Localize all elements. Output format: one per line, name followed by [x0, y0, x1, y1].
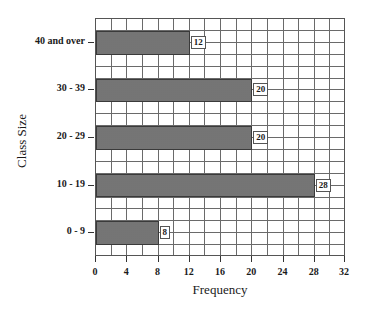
- y-category-label: 40 and over: [35, 35, 85, 47]
- x-tick-label: 20: [239, 266, 263, 277]
- x-tick-label: 16: [208, 266, 232, 277]
- y-tick: [88, 42, 94, 43]
- x-tick: [220, 256, 221, 262]
- x-tick: [251, 256, 252, 262]
- bar-value-label: 20: [253, 131, 268, 144]
- grid-line-horizontal: [96, 208, 344, 209]
- bar-value-label: 20: [253, 83, 268, 96]
- y-category-label: 10 - 19: [57, 178, 85, 190]
- x-tick-label: 12: [177, 266, 201, 277]
- x-tick: [344, 256, 345, 262]
- y-category-label: 20 - 29: [57, 130, 85, 142]
- bar-value-label: 12: [191, 36, 206, 49]
- x-axis-title: Frequency: [170, 282, 270, 298]
- x-tick: [95, 256, 96, 262]
- y-tick: [88, 232, 94, 233]
- y-tick: [88, 137, 94, 138]
- plot-area: 122020288: [95, 18, 345, 256]
- grid-line-horizontal: [96, 66, 344, 67]
- x-tick-label: 0: [83, 266, 107, 277]
- y-category-label: 0 - 9: [67, 225, 85, 237]
- bar: [96, 126, 252, 150]
- y-tick: [88, 185, 94, 186]
- x-tick: [283, 256, 284, 262]
- x-tick-label: 32: [332, 266, 356, 277]
- x-tick: [158, 256, 159, 262]
- x-tick-label: 4: [114, 266, 138, 277]
- x-tick: [314, 256, 315, 262]
- grid-line-horizontal: [96, 161, 344, 162]
- bar-value-label: 28: [316, 179, 331, 192]
- grid-line-horizontal: [96, 113, 344, 114]
- y-tick: [88, 89, 94, 90]
- y-category-label: 30 - 39: [57, 82, 85, 94]
- x-tick: [126, 256, 127, 262]
- x-tick-label: 8: [146, 266, 170, 277]
- bar-value-label: 8: [160, 226, 171, 239]
- bar-chart: Class Size 122020288 40 and over30 - 392…: [0, 0, 371, 311]
- x-tick-label: 28: [302, 266, 326, 277]
- bar: [96, 174, 315, 198]
- bar: [96, 79, 252, 103]
- y-axis-title: Class Size: [14, 91, 30, 191]
- x-tick-label: 24: [271, 266, 295, 277]
- bar: [96, 31, 190, 55]
- x-tick: [189, 256, 190, 262]
- bar: [96, 221, 159, 245]
